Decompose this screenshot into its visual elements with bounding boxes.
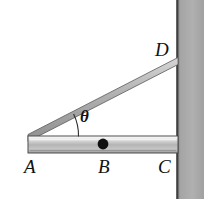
strut-body [28,58,178,142]
point-b-dot [98,139,109,150]
wall-body [178,0,204,199]
label-point-d: D [155,40,169,59]
label-point-a: A [24,157,36,176]
wall-group [176,0,204,199]
label-point-c: C [158,157,171,176]
physics-diagram-figure: A B C D θ [0,0,204,199]
wall-left-edge [176,0,178,199]
label-angle-theta: θ [80,108,89,125]
strut-ad [28,58,178,142]
label-point-b: B [98,157,110,176]
